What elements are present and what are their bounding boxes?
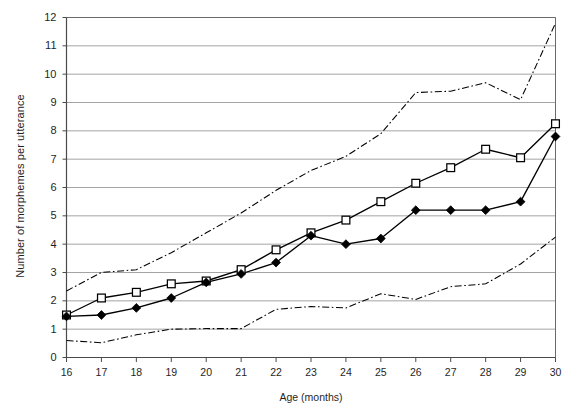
series-line-upper-confidence-band bbox=[67, 23, 556, 291]
y-tick-label-3: 3 bbox=[29, 266, 57, 278]
marker-square-28 bbox=[482, 145, 490, 153]
x-tick-label-29: 29 bbox=[508, 366, 534, 378]
marker-diamond-24 bbox=[342, 240, 351, 249]
y-tick-label-8: 8 bbox=[29, 124, 57, 136]
marker-square-19 bbox=[167, 280, 175, 288]
marker-square-18 bbox=[132, 288, 140, 296]
y-tick-label-0: 0 bbox=[29, 351, 57, 363]
y-tick-label-11: 11 bbox=[29, 39, 57, 51]
marker-square-22 bbox=[272, 246, 280, 254]
y-tick-label-12: 12 bbox=[29, 11, 57, 23]
y-tick-label-10: 10 bbox=[29, 68, 57, 80]
y-tick-label-4: 4 bbox=[29, 238, 57, 250]
x-tick-label-17: 17 bbox=[88, 366, 114, 378]
x-tick-label-25: 25 bbox=[368, 366, 394, 378]
x-tick-label-21: 21 bbox=[228, 366, 254, 378]
x-tick-label-16: 16 bbox=[54, 366, 80, 378]
x-tick-label-18: 18 bbox=[123, 366, 149, 378]
plot-canvas bbox=[0, 0, 580, 416]
marker-diamond-29 bbox=[516, 197, 525, 206]
x-tick-label-20: 20 bbox=[193, 366, 219, 378]
x-tick-label-24: 24 bbox=[333, 366, 359, 378]
marker-square-27 bbox=[447, 164, 455, 172]
marker-diamond-17 bbox=[97, 311, 106, 320]
x-tick-label-28: 28 bbox=[473, 366, 499, 378]
marker-diamond-28 bbox=[481, 206, 490, 215]
y-tick-label-7: 7 bbox=[29, 153, 57, 165]
marker-square-29 bbox=[517, 154, 525, 162]
x-tick-label-27: 27 bbox=[438, 366, 464, 378]
marker-square-30 bbox=[552, 120, 560, 128]
y-tick-label-6: 6 bbox=[29, 181, 57, 193]
chart-figure: Number of morphemes per utterance Age (m… bbox=[0, 0, 580, 416]
x-tick-label-19: 19 bbox=[158, 366, 184, 378]
marker-diamond-27 bbox=[446, 206, 455, 215]
x-tick-label-23: 23 bbox=[298, 366, 324, 378]
marker-square-17 bbox=[98, 294, 106, 302]
y-tick-label-5: 5 bbox=[29, 209, 57, 221]
marker-square-26 bbox=[412, 179, 420, 187]
marker-square-24 bbox=[342, 216, 350, 224]
marker-diamond-30 bbox=[551, 132, 560, 141]
marker-diamond-18 bbox=[132, 304, 141, 313]
y-tick-label-9: 9 bbox=[29, 96, 57, 108]
x-tick-label-22: 22 bbox=[263, 366, 289, 378]
x-tick-label-30: 30 bbox=[543, 366, 569, 378]
x-tick-label-26: 26 bbox=[403, 366, 429, 378]
marker-square-25 bbox=[377, 198, 385, 206]
y-tick-label-1: 1 bbox=[29, 323, 57, 335]
y-tick-label-2: 2 bbox=[29, 294, 57, 306]
